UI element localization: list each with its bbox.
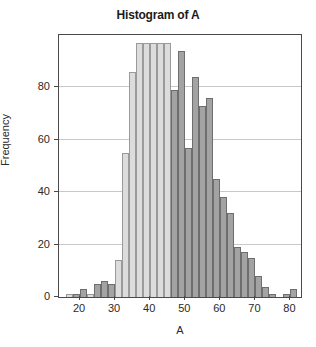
histogram-bar: [143, 43, 150, 297]
histogram-bar: [122, 153, 129, 297]
histogram-bar: [248, 258, 255, 297]
y-tick-label: 20: [28, 238, 50, 250]
histogram-bar: [290, 289, 297, 297]
histogram-bar: [66, 294, 73, 297]
x-tick-mark: [184, 296, 185, 300]
x-tick-label: 20: [73, 302, 85, 314]
y-tick-label: 40: [28, 185, 50, 197]
x-tick-mark: [114, 296, 115, 300]
x-tick-mark: [289, 296, 290, 300]
x-axis-label: A: [58, 324, 302, 336]
histogram-bar: [227, 213, 234, 297]
x-tick-mark: [79, 296, 80, 300]
histogram-bar: [192, 77, 199, 297]
histogram-bar: [157, 43, 164, 297]
y-axis-label: Frequency: [0, 114, 11, 166]
histogram-bar: [136, 43, 143, 297]
histogram-bar: [101, 281, 108, 297]
plot-area: [58, 34, 302, 298]
histogram-bar: [150, 43, 157, 297]
histogram-bar: [129, 72, 136, 297]
x-tick-mark: [254, 296, 255, 300]
histogram-bar: [164, 43, 171, 297]
y-tick-mark: [54, 139, 58, 140]
histogram-bar: [80, 289, 87, 297]
histogram-bar: [115, 260, 122, 297]
histogram-bar: [234, 247, 241, 297]
y-tick-mark: [54, 244, 58, 245]
histogram-bar: [241, 252, 248, 297]
y-tick-label: 0: [28, 290, 50, 302]
histogram-bar: [269, 294, 276, 297]
histogram-bar: [199, 106, 206, 297]
histogram-bar: [171, 90, 178, 297]
y-tick-mark: [54, 296, 58, 297]
x-tick-label: 30: [108, 302, 120, 314]
bars-layer: [59, 35, 301, 297]
x-tick-mark: [149, 296, 150, 300]
histogram-bar: [178, 51, 185, 297]
histogram-bar: [220, 197, 227, 297]
y-tick-label: 60: [28, 133, 50, 145]
histogram-bar: [255, 276, 262, 297]
histogram-bar: [94, 284, 101, 297]
y-tick-mark: [54, 191, 58, 192]
y-tick-mark: [54, 86, 58, 87]
histogram-figure: Histogram of A Frequency A 0204060802030…: [0, 0, 316, 347]
x-tick-label: 80: [283, 302, 295, 314]
x-tick-mark: [219, 296, 220, 300]
x-tick-label: 70: [248, 302, 260, 314]
x-tick-label: 50: [178, 302, 190, 314]
x-tick-label: 60: [213, 302, 225, 314]
histogram-bar: [206, 98, 213, 297]
histogram-bar: [185, 148, 192, 297]
histogram-bar: [87, 294, 94, 297]
histogram-bar: [262, 287, 269, 297]
y-tick-label: 80: [28, 80, 50, 92]
x-tick-label: 40: [143, 302, 155, 314]
histogram-bar: [213, 179, 220, 297]
chart-title: Histogram of A: [0, 8, 316, 22]
